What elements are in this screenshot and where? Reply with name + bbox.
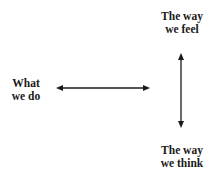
arrows-layer (0, 0, 222, 179)
vertical-double-arrow-icon (178, 53, 184, 128)
horizontal-double-arrow-icon (56, 85, 150, 91)
